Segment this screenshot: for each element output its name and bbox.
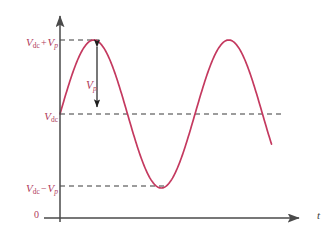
label-trough-operator: − — [40, 183, 48, 194]
label-peak-term-sub: p — [54, 41, 58, 50]
level-lines — [60, 40, 285, 186]
label-x-axis: t — [317, 210, 320, 221]
label-vdc-level: Vdc — [44, 107, 58, 124]
label-amplitude: Vp — [86, 76, 97, 93]
label-trough-term-sub: p — [54, 187, 58, 196]
label-peak-level: Vdc+Vp — [26, 33, 58, 50]
label-amplitude-base: V — [86, 79, 93, 91]
waveform-figure: Vdc+Vp Vdc Vdc−Vp Vp 0 t — [0, 0, 336, 251]
label-trough-base: V — [26, 182, 33, 194]
label-amplitude-sub: p — [93, 84, 97, 93]
label-peak-operator: + — [40, 37, 48, 48]
label-peak-base: V — [26, 36, 33, 48]
label-trough-level: Vdc−Vp — [26, 179, 58, 196]
label-vdc-sub: dc — [51, 115, 58, 124]
label-peak-base-sub: dc — [33, 41, 40, 50]
label-origin: 0 — [34, 210, 39, 220]
axes — [44, 16, 299, 222]
label-vdc-base: V — [44, 110, 51, 122]
label-trough-base-sub: dc — [33, 187, 40, 196]
